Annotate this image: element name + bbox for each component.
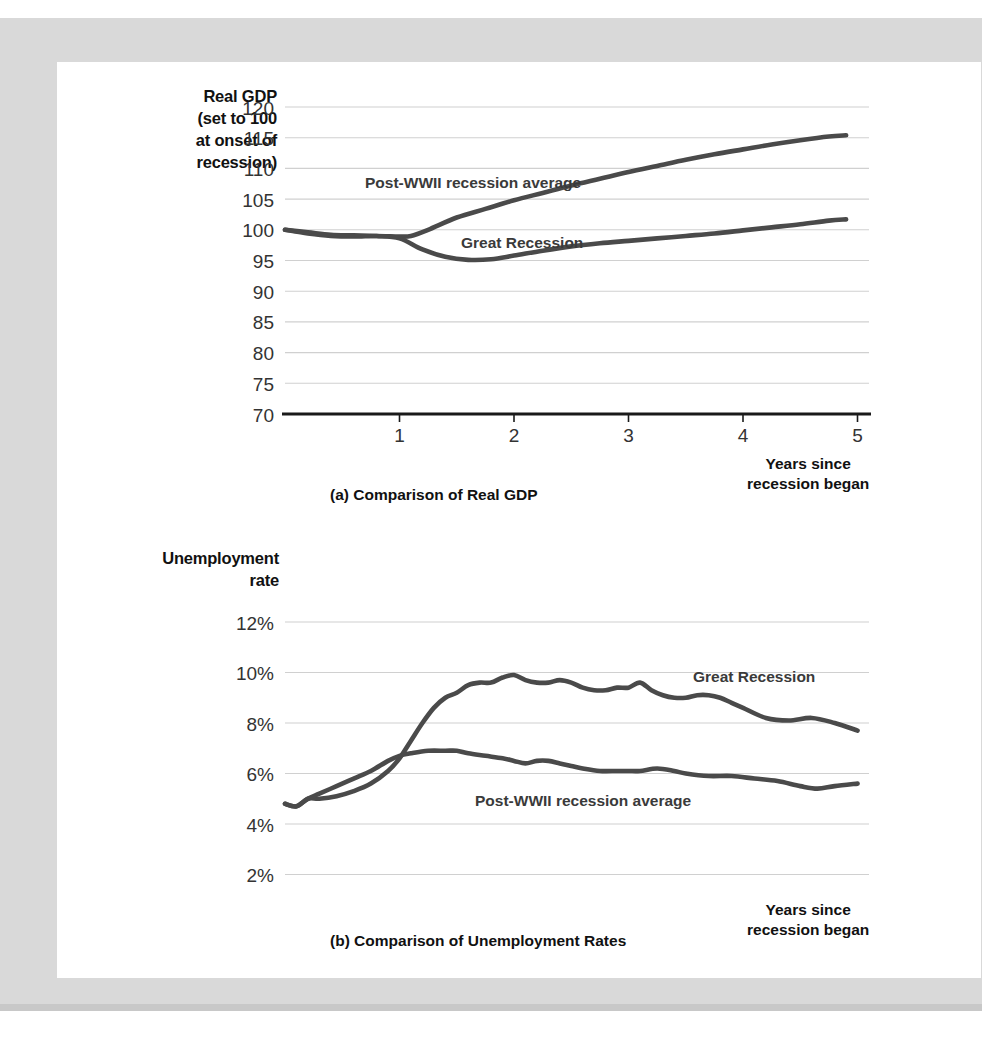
x-tick-label: 3 xyxy=(623,425,634,446)
y-tick-label: 110 xyxy=(244,159,274,180)
series-label-post-wwii: Post-WWII recession average xyxy=(475,792,692,809)
x-tick-label: 2 xyxy=(509,425,520,446)
series-line xyxy=(285,675,858,807)
x-tick-label: 1 xyxy=(394,425,405,446)
y-tick-label: 120 xyxy=(242,98,274,119)
y-tick-label: 80 xyxy=(253,343,274,364)
y-tick-label: 115 xyxy=(244,128,274,149)
y-tick-label: 100 xyxy=(242,220,274,241)
figure-b-caption: (b) Comparison of Unemployment Rates xyxy=(330,932,626,950)
x-tick-label: 4 xyxy=(738,425,749,446)
x-tick-label: 5 xyxy=(852,425,863,446)
y-tick-label: 6% xyxy=(247,764,275,785)
unemployment-x-axis-label: Years since recession began xyxy=(747,900,869,940)
unemployment-plot-area: 0%2%4%6%8%10%12%12345Great RecessionPost… xyxy=(57,522,981,912)
gdp-x-axis-label-line-2: recession began xyxy=(747,474,869,494)
y-tick-label: 10% xyxy=(236,663,274,684)
figure-page: Real GDP (set to 100 at onset of recessi… xyxy=(0,0,992,1042)
y-tick-label: 4% xyxy=(247,815,275,836)
page-mat-shadow xyxy=(0,1004,982,1011)
y-tick-label: 95 xyxy=(253,251,274,272)
unemployment-x-axis-label-line-2: recession began xyxy=(747,920,869,940)
y-tick-label: 90 xyxy=(253,282,274,303)
y-tick-label: 12% xyxy=(236,613,274,634)
unemployment-x-axis-label-line-1: Years since xyxy=(747,900,869,920)
gdp-plot-area: 70758085909510010511011512012345Post-WWI… xyxy=(57,62,981,462)
series-label-great-recession: Great Recession xyxy=(461,234,583,251)
y-tick-label: 105 xyxy=(242,190,274,211)
gdp-x-axis-label: Years since recession began xyxy=(747,454,869,494)
figure-a-real-gdp: Real GDP (set to 100 at onset of recessi… xyxy=(57,62,981,522)
y-tick-label: 75 xyxy=(253,374,274,395)
y-tick-label: 70 xyxy=(253,405,274,426)
y-tick-label: 85 xyxy=(253,312,274,333)
figure-a-caption: (a) Comparison of Real GDP xyxy=(330,486,538,504)
figure-card: Real GDP (set to 100 at onset of recessi… xyxy=(57,62,981,978)
gdp-x-axis-label-line-1: Years since xyxy=(747,454,869,474)
y-tick-label: 2% xyxy=(247,865,275,886)
figure-b-unemployment: Unemployment rate 0%2%4%6%8%10%12%12345G… xyxy=(57,522,981,978)
series-label-great-recession: Great Recession xyxy=(693,668,815,685)
series-label-post-wwii: Post-WWII recession average xyxy=(365,174,582,191)
y-tick-label: 8% xyxy=(247,714,275,735)
